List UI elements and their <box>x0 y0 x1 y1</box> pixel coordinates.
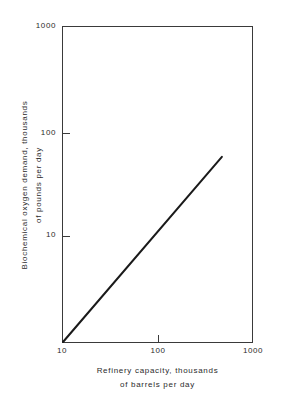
x-axis-title-line-1: Refinery capacity, thousands <box>62 364 253 378</box>
series-line-bod <box>63 157 222 342</box>
x-axis-title-line-2: of barrels per day <box>62 378 253 392</box>
x-tick-label-100: 100 <box>138 346 178 355</box>
y-tick-label-10: 10 <box>16 230 56 239</box>
x-tick-label-10: 10 <box>42 346 82 355</box>
x-tick-label-1000: 1000 <box>233 346 273 355</box>
y-axis-title-line-1: Biochemical oxygen demand, thousands <box>18 35 32 335</box>
x-axis-title: Refinery capacity, thousands of barrels … <box>62 364 253 392</box>
y-tick-label-100: 100 <box>16 128 56 137</box>
y-axis-title: Biochemical oxygen demand, thousands of … <box>14 26 50 343</box>
data-layer <box>63 27 252 342</box>
y-axis-title-line-2: of pounds per day <box>32 35 46 335</box>
y-tick-label-1000: 1000 <box>16 21 56 30</box>
chart-figure: Biochemical oxygen demand, thousands of … <box>0 0 290 408</box>
plot-area <box>62 26 253 343</box>
